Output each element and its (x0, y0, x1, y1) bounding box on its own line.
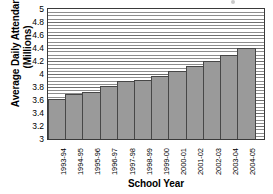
x-axis-tick-label: 2003-04 (232, 139, 240, 175)
y-axis-tick-label: 3.2 (22, 122, 44, 130)
bar-chart: Average Daily Attendance (Millions) 54.8… (0, 0, 273, 194)
plot-area (47, 8, 265, 140)
bar (65, 94, 83, 140)
bars-layer (48, 9, 264, 139)
y-axis-tick-label: 4.8 (22, 18, 44, 26)
x-axis-tick-label: 1996-97 (111, 139, 119, 175)
bar (203, 61, 221, 139)
x-axis-tick-label: 1998-99 (146, 139, 154, 175)
x-axis-tick-label: 2004-05 (249, 139, 257, 175)
y-axis-tick-label: 3.8 (22, 83, 44, 91)
y-axis-tick-label: 5 (22, 5, 44, 13)
y-axis-tick-labels: 54.84.64.44.243.83.63.43.23 (22, 8, 44, 140)
x-axis-tick-label: 1997-98 (129, 139, 137, 175)
x-axis-tick-label: 1994-95 (77, 139, 85, 175)
y-axis-tick-label: 4 (22, 70, 44, 78)
y-axis-tick-label: 4.2 (22, 57, 44, 65)
x-axis-tick-label: 2001-02 (197, 139, 205, 175)
x-axis-tick-label: 2000-01 (180, 139, 188, 175)
bar (100, 86, 118, 139)
y-axis-tick-label: 3.6 (22, 96, 44, 104)
x-axis-tick-labels: 1993-941994-951995-961996-971997-981998-… (47, 141, 265, 177)
y-axis-title-line1: Average Daily Attendance (10, 0, 21, 107)
y-axis-tick-label: 4.6 (22, 31, 44, 39)
bar (237, 48, 255, 139)
bar (186, 66, 204, 139)
x-axis-tick-label: 1999-00 (163, 139, 171, 175)
x-axis-title: School Year (47, 178, 265, 189)
y-axis-tick-label: 3.4 (22, 109, 44, 117)
bar (82, 92, 100, 139)
bar (168, 71, 186, 139)
bar (117, 81, 135, 139)
bar (220, 55, 238, 140)
bar (134, 80, 152, 139)
x-axis-tick-label: 1993-94 (60, 139, 68, 175)
bar (48, 99, 66, 139)
scan-artifact (231, 0, 235, 4)
x-axis-tick-label: 2002-03 (215, 139, 223, 175)
x-axis-tick-label: 1995-96 (94, 139, 102, 175)
y-axis-tick-label: 3 (22, 135, 44, 143)
bar (151, 76, 169, 139)
y-axis-tick-label: 4.4 (22, 44, 44, 52)
